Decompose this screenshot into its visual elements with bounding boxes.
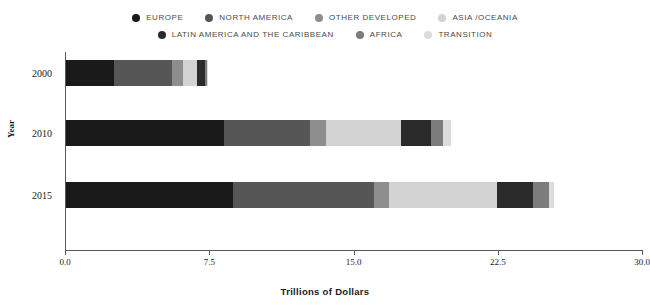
legend-swatch-icon <box>438 14 446 22</box>
stacked-bar-chart: EUROPENORTH AMERICAOTHER DEVELOPEDASIA /… <box>0 0 650 306</box>
legend-item-label: AFRICA <box>370 30 403 39</box>
legend-row-1: EUROPENORTH AMERICAOTHER DEVELOPEDASIA /… <box>0 9 650 26</box>
legend-item-label: TRANSITION <box>438 30 492 39</box>
legend-item[interactable]: TRANSITION <box>424 30 492 39</box>
legend-item[interactable]: ASIA /OCEANIA <box>438 13 517 22</box>
legend-row-2: LATIN AMERICA AND THE CARIBBEANAFRICATRA… <box>0 26 650 43</box>
bar-segment[interactable] <box>401 120 432 146</box>
legend-swatch-icon <box>356 31 364 39</box>
x-axis-tick-label: 22.5 <box>490 257 506 267</box>
x-axis-tick-label: 15.0 <box>346 257 362 267</box>
legend-item[interactable]: AFRICA <box>356 30 403 39</box>
x-axis-tick-label: 7.5 <box>204 257 215 267</box>
bar-segment[interactable] <box>233 182 373 208</box>
bar-segment[interactable] <box>207 60 208 86</box>
bar-2000[interactable] <box>66 60 208 86</box>
legend-swatch-icon <box>205 14 213 22</box>
legend-item[interactable]: EUROPE <box>132 13 183 22</box>
bar-segment[interactable] <box>224 120 311 146</box>
bar-segment[interactable] <box>443 120 451 146</box>
x-axis-tick-label: 30.0 <box>634 257 650 267</box>
legend-item-label: NORTH AMERICA <box>219 13 293 22</box>
bar-segment[interactable] <box>197 60 206 86</box>
x-axis-tick <box>354 250 355 255</box>
y-axis-tick-label: 2000 <box>4 68 52 79</box>
y-axis-tick-label: 2010 <box>4 128 52 139</box>
legend-item-label: OTHER DEVELOPED <box>329 13 416 22</box>
plot-area: 0.07.515.022.530.0200020102015 <box>65 52 642 250</box>
legend-swatch-icon <box>158 31 166 39</box>
legend-swatch-icon <box>424 31 432 39</box>
chart-legend: EUROPENORTH AMERICAOTHER DEVELOPEDASIA /… <box>0 9 650 43</box>
bar-segment[interactable] <box>66 60 114 86</box>
bar-segment[interactable] <box>497 182 534 208</box>
bar-segment[interactable] <box>389 182 497 208</box>
x-axis-tick <box>209 250 210 255</box>
x-axis-tick <box>65 250 66 255</box>
bar-segment[interactable] <box>172 60 184 86</box>
bar-segment[interactable] <box>183 60 196 86</box>
bar-segment[interactable] <box>533 182 548 208</box>
x-axis-tick-label: 0.0 <box>59 257 70 267</box>
legend-swatch-icon <box>132 14 140 22</box>
bar-2015[interactable] <box>66 182 554 208</box>
bar-segment[interactable] <box>310 120 325 146</box>
legend-swatch-icon <box>315 14 323 22</box>
x-axis-title: Trillions of Dollars <box>0 286 650 297</box>
bar-segment[interactable] <box>66 182 233 208</box>
legend-item[interactable]: LATIN AMERICA AND THE CARIBBEAN <box>158 30 334 39</box>
x-axis-tick <box>498 250 499 255</box>
legend-item-label: LATIN AMERICA AND THE CARIBBEAN <box>172 30 334 39</box>
bar-segment[interactable] <box>66 120 224 146</box>
legend-item[interactable]: NORTH AMERICA <box>205 13 293 22</box>
bar-2010[interactable] <box>66 120 451 146</box>
y-axis-tick-label: 2015 <box>4 190 52 201</box>
bar-segment[interactable] <box>549 182 555 208</box>
bar-segment[interactable] <box>326 120 401 146</box>
legend-item-label: ASIA /OCEANIA <box>452 13 517 22</box>
x-axis-tick <box>642 250 643 255</box>
bar-segment[interactable] <box>374 182 389 208</box>
bar-segment[interactable] <box>114 60 172 86</box>
legend-item-label: EUROPE <box>146 13 183 22</box>
bar-segment[interactable] <box>431 120 443 146</box>
legend-item[interactable]: OTHER DEVELOPED <box>315 13 416 22</box>
